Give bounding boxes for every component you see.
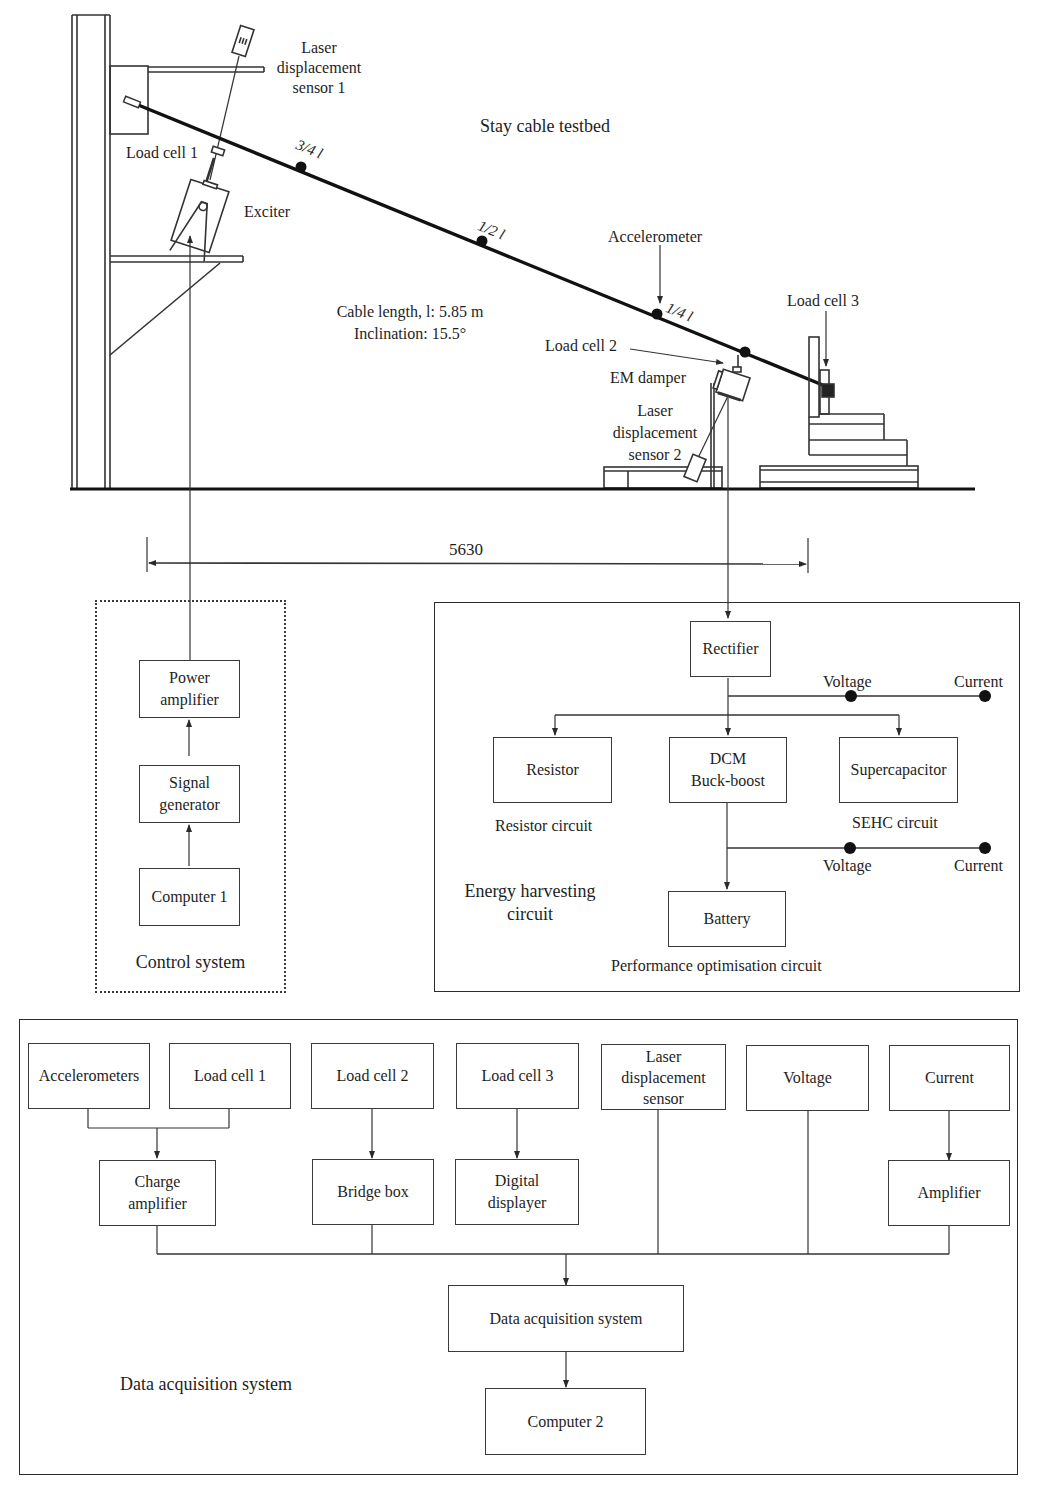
current-label-top: Current: [954, 672, 1003, 692]
block-text: amplifier: [160, 689, 219, 711]
dcm-buck-boost-block: DCMBuck-boost: [669, 737, 787, 803]
load-cell-3-label: Load cell 3: [787, 291, 859, 311]
block-text: Bridge box: [337, 1181, 409, 1203]
block-text: Amplifier: [917, 1182, 980, 1204]
cable-end-left: [123, 96, 140, 108]
performance-circuit-label: Performance optimisation circuit: [611, 956, 822, 976]
load-cell-1-label: Load cell 1: [126, 143, 198, 163]
block-text: displayer: [488, 1192, 547, 1214]
block-text: Laser: [621, 1046, 705, 1067]
marker-damper-attach: [740, 347, 751, 358]
sensor-accelerometers: Accelerometers: [28, 1043, 150, 1109]
cable-length-label: Cable length, l: 5.85 m: [318, 302, 502, 322]
sensor-current: Current: [889, 1045, 1010, 1111]
energy-harvesting-title: Energy harvesting circuit: [444, 880, 616, 926]
sehc-circuit-label: SEHC circuit: [852, 813, 938, 833]
laser-sensor-1-label: Laser displacement sensor 1: [264, 38, 374, 98]
rectifier-block: Rectifier: [690, 621, 771, 677]
block-text: Power: [160, 667, 219, 689]
block-text: Charge: [128, 1171, 187, 1193]
voltage-label-bottom: Voltage: [823, 856, 872, 876]
sensor-load-cell-3: Load cell 3: [456, 1043, 579, 1109]
block-text: Computer 2: [528, 1411, 604, 1433]
signal-generator-block: Signalgenerator: [139, 765, 240, 823]
voltage-label-top: Voltage: [823, 672, 872, 692]
exciter-glyph: [168, 177, 230, 263]
block-text: Digital: [488, 1170, 547, 1192]
data-acquisition-title: Data acquisition system: [120, 1374, 292, 1394]
sensor-laser-displacement: Laserdisplacementsensor: [601, 1044, 726, 1110]
block-text: Buck-boost: [691, 770, 765, 792]
block-text: Load cell 2: [337, 1065, 409, 1087]
label-line: sensor 1: [264, 78, 374, 98]
sensor-load-cell-1: Load cell 1: [169, 1043, 291, 1109]
label-line: Laser: [592, 400, 718, 422]
block-text: displacement: [621, 1067, 705, 1088]
amplifier-block: Amplifier: [888, 1160, 1010, 1226]
computer-1-block: Computer 1: [139, 868, 240, 926]
accelerometer-label: Accelerometer: [608, 227, 702, 247]
bridge-box-block: Bridge box: [312, 1159, 434, 1225]
title-line: Energy harvesting: [444, 880, 616, 903]
block-text: Data acquisition system: [490, 1308, 643, 1330]
dimension-label: 5630: [449, 540, 483, 560]
load-cell-2-label: Load cell 2: [545, 336, 617, 356]
block-text: Load cell 3: [482, 1065, 554, 1087]
control-system-title: Control system: [95, 952, 286, 972]
charge-amplifier-block: Chargeamplifier: [99, 1160, 216, 1226]
current-label-bottom: Current: [954, 856, 1003, 876]
load-cell-1-glyph: [211, 146, 224, 155]
block-text: Computer 1: [152, 886, 228, 908]
sensor-load-cell-2: Load cell 2: [311, 1043, 434, 1109]
exciter-label: Exciter: [244, 202, 290, 222]
block-text: Current: [925, 1067, 974, 1089]
label-line: sensor 2: [592, 444, 718, 466]
battery-block: Battery: [668, 891, 786, 947]
supercapacitor-block: Supercapacitor: [839, 737, 958, 803]
block-text: Signal: [159, 772, 219, 794]
block-text: Voltage: [783, 1067, 832, 1089]
block-text: amplifier: [128, 1193, 187, 1215]
computer-2-block: Computer 2: [485, 1388, 646, 1455]
digital-displayer-block: Digitaldisplayer: [455, 1159, 579, 1225]
block-text: DCM: [691, 748, 765, 770]
block-text: generator: [159, 794, 219, 816]
block-text: Supercapacitor: [851, 759, 947, 781]
marker-three-quarter-l: [296, 162, 307, 173]
label-line: Laser: [264, 38, 374, 58]
laser-sensor-2-label: Laser displacement sensor 2: [592, 400, 718, 466]
laser-sensor-1-glyph: [232, 26, 254, 57]
resistor-circuit-label: Resistor circuit: [495, 816, 592, 836]
testbed-title: Stay cable testbed: [480, 116, 610, 136]
right-anchor-structure: [760, 337, 918, 488]
label-line: displacement: [592, 422, 718, 444]
em-damper-label: EM damper: [610, 368, 686, 388]
label-line: displacement: [264, 58, 374, 78]
power-amplifier-block: Poweramplifier: [139, 660, 240, 718]
block-text: Load cell 1: [194, 1065, 266, 1087]
block-text: Resistor: [526, 759, 578, 781]
block-text: sensor: [621, 1088, 705, 1109]
block-text: Accelerometers: [39, 1065, 139, 1087]
daq-system-block: Data acquisition system: [448, 1285, 684, 1352]
block-text: Rectifier: [703, 638, 759, 660]
title-line: circuit: [444, 903, 616, 926]
left-support-column: [72, 15, 110, 488]
em-damper-glyph: [712, 368, 750, 401]
sensor-voltage: Voltage: [746, 1045, 869, 1111]
marker-quarter-l: [652, 309, 663, 320]
resistor-block: Resistor: [493, 737, 612, 803]
inclination-label: Inclination: 15.5°: [318, 324, 502, 344]
block-text: Battery: [703, 908, 750, 930]
